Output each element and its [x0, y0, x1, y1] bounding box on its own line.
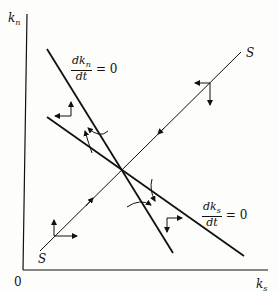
- numerator-text: dk: [72, 54, 86, 67]
- y-axis-subscript: n: [15, 18, 20, 27]
- direction-arrows-upper-right-icon: [195, 83, 210, 105]
- denominator: dt: [76, 71, 87, 83]
- dkn-dt-zero-label: dkn dt = 0: [71, 55, 117, 83]
- fraction: dks dt: [202, 201, 222, 229]
- numerator: dks: [202, 201, 222, 217]
- saddle-label-bottom: S: [38, 253, 46, 265]
- y-axis-label: kn: [8, 12, 20, 27]
- diagram-graphics: [0, 0, 278, 292]
- denominator: dt: [206, 217, 217, 229]
- y-axis: [23, 14, 27, 270]
- origin-label: 0: [14, 276, 22, 288]
- x-axis-label: ks: [256, 278, 267, 292]
- saddle-arrow-upper-icon: [158, 128, 164, 134]
- dks-dt-zero-label: dks dt = 0: [202, 201, 247, 229]
- dks-dt-zero-locus: [47, 117, 244, 256]
- numerator-text: dk: [203, 200, 217, 213]
- numerator-subscript: s: [217, 206, 221, 215]
- equals-zero: = 0: [226, 208, 248, 222]
- phase-diagram: kn ks 0 S S dkn dt = 0 dks dt = 0: [0, 0, 278, 292]
- saddle-label-top: S: [246, 47, 254, 59]
- direction-arrows-upper-left-icon: [55, 102, 71, 116]
- saddle-arrow-lower-icon: [86, 198, 93, 206]
- numerator: dkn: [71, 55, 92, 71]
- equals-zero: = 0: [96, 62, 118, 76]
- fraction: dkn dt: [71, 55, 92, 83]
- x-axis-subscript: s: [263, 284, 267, 292]
- direction-arrows-lower-right-icon: [167, 218, 182, 232]
- numerator-subscript: n: [86, 60, 91, 69]
